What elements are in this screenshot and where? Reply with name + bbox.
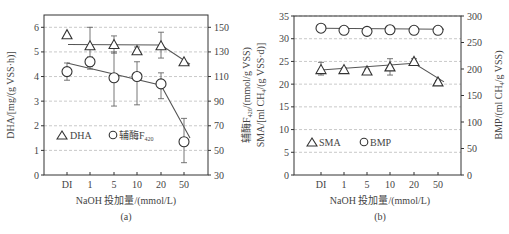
circle-marker-icon [62, 67, 72, 77]
x-tick-label: 20 [156, 179, 166, 190]
left-tick-label: 4 [34, 71, 39, 82]
x-tick-label: 10 [132, 179, 142, 190]
figure: 0123456 30507090110130150 DI15102050 DHA… [0, 0, 509, 234]
right-tick-label: 200 [467, 64, 482, 75]
left-tick-label: 30 [279, 33, 289, 44]
triangle-marker-icon [109, 40, 119, 49]
right-tick-label: 30 [214, 170, 224, 181]
triangle-marker-icon [57, 131, 67, 139]
left-tick-label: 2 [34, 120, 39, 131]
chart-b: 05101520253035 050100150200250300 DI1510… [255, 11, 505, 224]
triangle-marker-icon [85, 41, 95, 50]
circle-marker-icon [85, 57, 95, 67]
left-tick-label: 0 [284, 170, 289, 181]
x-tick-label: 1 [342, 179, 347, 190]
triangle-marker-icon [307, 138, 317, 146]
trend-line [67, 63, 190, 138]
a-legend-dha: DHA [70, 130, 92, 141]
left-tick-label: 25 [279, 56, 289, 67]
left-tick-label: 10 [279, 124, 289, 135]
circle-marker-icon [409, 25, 419, 35]
chart-a: 0123456 30507090110130150 DI15102050 DHA… [5, 15, 253, 223]
x-tick-label: 5 [112, 179, 117, 190]
circle-marker-icon [109, 73, 119, 83]
b-legend-sma: SMA [319, 137, 341, 148]
right-tick-label: 0 [467, 170, 472, 181]
x-tick-label: 20 [409, 179, 419, 190]
right-tick-label: 150 [214, 22, 229, 33]
left-tick-label: 3 [34, 96, 39, 107]
a-x-axis-label: NaOH 投加量/(mmol/L) [76, 194, 176, 207]
b-series [316, 23, 444, 86]
right-tick-label: 90 [214, 96, 224, 107]
a-legend: DHA 辅酶F420 [57, 129, 154, 142]
circle-marker-icon [339, 25, 349, 35]
right-tick-label: 130 [214, 46, 229, 57]
x-tick-label: 50 [179, 179, 189, 190]
left-tick-label: 5 [284, 147, 289, 158]
right-tick-label: 300 [467, 11, 482, 22]
right-tick-label: 110 [214, 71, 229, 82]
circle-marker-icon [316, 23, 326, 33]
right-tick-label: 50 [214, 145, 224, 156]
triangle-marker-icon [385, 62, 395, 71]
circle-marker-icon [360, 138, 368, 146]
triangle-marker-icon [409, 56, 419, 65]
b-left-axis-label: SMA/[ml CH4/(g VSS·d)] [255, 43, 267, 148]
right-tick-label: 100 [467, 117, 482, 128]
circle-marker-icon [362, 26, 372, 36]
b-right-axis-label: BMP/(ml CH4/g VSS) [493, 51, 505, 140]
left-tick-label: 6 [34, 22, 39, 33]
triangle-marker-icon [316, 65, 326, 74]
a-left-axis-label: DHA/[mg/(g VSS·h)] [5, 51, 17, 138]
b-left-axis-ticks: 05101520253035 [279, 11, 294, 181]
b-legend: SMA BMP [307, 137, 392, 148]
circle-marker-icon [433, 25, 443, 35]
triangle-marker-icon [62, 30, 72, 39]
b-x-axis-label: NaOH 投加量/(mmol/L) [330, 194, 430, 207]
x-tick-label: 5 [365, 179, 370, 190]
circle-marker-icon [385, 25, 395, 35]
left-tick-label: 20 [279, 79, 289, 90]
b-caption: (b) [374, 211, 386, 223]
left-tick-label: 0 [34, 170, 39, 181]
x-tick-label: DI [62, 179, 73, 190]
a-caption: (a) [120, 211, 131, 223]
left-tick-label: 1 [34, 145, 39, 156]
circle-marker-icon [132, 72, 142, 82]
left-tick-label: 35 [279, 11, 289, 22]
circle-marker-icon [156, 79, 166, 89]
a-left-axis-ticks: 0123456 [34, 22, 44, 181]
x-tick-label: 10 [385, 179, 395, 190]
a-legend-f420: 辅酶F420 [119, 129, 154, 142]
circle-marker-icon [179, 137, 189, 147]
a-right-axis-ticks: 30507090110130150 [208, 22, 229, 181]
left-tick-label: 15 [279, 101, 289, 112]
a-right-axis-label: 辅酶F420/(mmol/g VSS) [240, 47, 253, 143]
right-tick-label: 50 [467, 143, 477, 154]
triangle-marker-icon [132, 46, 142, 55]
triangle-marker-icon [433, 77, 443, 86]
b-legend-bmp: BMP [370, 137, 392, 148]
a-series [62, 27, 190, 162]
right-tick-label: 250 [467, 37, 482, 48]
left-tick-label: 5 [34, 46, 39, 57]
x-tick-label: 50 [433, 179, 443, 190]
x-tick-label: DI [316, 179, 327, 190]
x-tick-label: 1 [88, 179, 93, 190]
right-tick-label: 150 [467, 90, 482, 101]
right-tick-label: 70 [214, 120, 224, 131]
circle-marker-icon [109, 131, 117, 139]
b-plot-frame [294, 16, 461, 175]
b-right-axis-ticks: 050100150200250300 [461, 11, 482, 181]
